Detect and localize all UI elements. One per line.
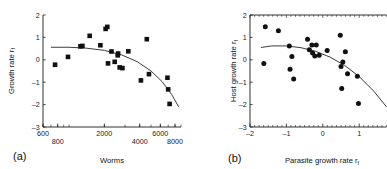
- x-axis-title: Worms: [100, 156, 124, 165]
- data-point: [288, 67, 293, 72]
- data-point: [339, 64, 344, 69]
- y-tick-label: –1: [239, 78, 247, 87]
- y-tick-label: 0: [243, 55, 247, 64]
- x-tick-label: 800: [52, 137, 64, 146]
- figure-container: –3–2–10126008002000400060008000WormsGrow…: [0, 0, 387, 169]
- data-point: [317, 53, 322, 58]
- y-tick-label: –2: [32, 100, 40, 109]
- x-axis-title-subscript: f: [358, 160, 360, 166]
- data-point: [289, 54, 294, 59]
- y-tick-label: 1: [36, 33, 40, 42]
- data-point: [126, 49, 131, 54]
- data-point: [106, 61, 111, 66]
- data-point: [66, 55, 71, 60]
- x-tick-label: –1: [282, 129, 290, 138]
- data-point: [287, 43, 292, 48]
- y-tick-label: –1: [32, 78, 40, 87]
- y-axis-title-subscript: f: [10, 48, 16, 50]
- data-point: [87, 34, 92, 39]
- y-tick-label: 2: [36, 11, 40, 20]
- data-point: [305, 37, 310, 42]
- data-point: [309, 43, 314, 48]
- data-point: [312, 53, 317, 58]
- data-point: [325, 48, 330, 53]
- data-point: [120, 66, 125, 71]
- data-point: [276, 28, 281, 33]
- data-point: [263, 24, 268, 29]
- x-axis-title: Parasite growth rate rf: [285, 156, 360, 166]
- data-point: [145, 37, 150, 42]
- axis-frame: [250, 15, 387, 127]
- y-axis-title: Host growth rate rf: [229, 40, 239, 102]
- data-point: [291, 77, 296, 82]
- x-tick-label: 6000: [152, 129, 168, 138]
- data-point: [339, 86, 344, 91]
- x-tick-label: –2: [246, 129, 254, 138]
- data-point: [105, 25, 110, 30]
- data-point: [109, 49, 114, 54]
- figure-svg: –3–2–10126008002000400060008000WormsGrow…: [0, 0, 387, 169]
- x-tick-label: 600: [37, 129, 49, 138]
- fit-curve: [261, 46, 387, 107]
- x-tick-label: 0: [321, 129, 325, 138]
- data-point: [356, 101, 361, 106]
- data-point: [166, 87, 171, 92]
- axis-frame: [43, 15, 181, 127]
- data-point: [80, 44, 85, 49]
- y-tick-label: 1: [243, 33, 247, 42]
- data-point: [338, 33, 343, 38]
- data-point: [165, 75, 170, 80]
- data-point: [98, 43, 103, 48]
- panel-label: (a): [13, 150, 26, 162]
- data-point: [112, 60, 117, 65]
- x-tick-label: 1: [357, 129, 361, 138]
- y-axis-title-subscript: f: [233, 40, 239, 42]
- data-point: [345, 71, 350, 76]
- panel-b: –3–2–1012–2–101Parasite growth rate rfHo…: [228, 11, 387, 166]
- data-point: [261, 61, 266, 66]
- y-tick-label: 0: [36, 55, 40, 64]
- x-tick-label: 2000: [96, 129, 112, 138]
- data-point: [340, 60, 345, 65]
- y-tick-label: 2: [243, 11, 247, 20]
- data-point: [116, 51, 121, 56]
- data-point: [139, 78, 144, 83]
- x-tick-label: 4000: [132, 137, 148, 146]
- x-tick-label: 8000: [167, 137, 183, 146]
- data-point: [53, 62, 58, 67]
- data-point: [355, 74, 360, 79]
- y-axis-title: Growth rate rf: [7, 48, 17, 94]
- panel-label: (b): [228, 152, 241, 164]
- data-point: [314, 43, 319, 48]
- panel-a: –3–2–10126008002000400060008000WormsGrow…: [7, 11, 183, 166]
- data-point: [147, 72, 152, 77]
- data-point: [167, 102, 172, 107]
- y-tick-label: –2: [239, 100, 247, 109]
- data-point: [343, 49, 348, 54]
